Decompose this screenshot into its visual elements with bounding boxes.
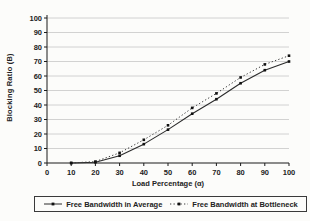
data-point-marker <box>118 152 121 155</box>
y-tick-label: 90 <box>34 28 42 37</box>
data-point-marker <box>239 82 242 85</box>
data-point-marker <box>143 139 146 142</box>
blocking-ratio-chart: Blocking Ratio (B) 010203040506070809010… <box>0 0 310 221</box>
data-point-marker <box>191 107 194 110</box>
data-point-marker <box>264 63 267 66</box>
x-tick-label: 90 <box>261 168 269 177</box>
y-tick-label: 10 <box>34 144 42 153</box>
data-point-marker <box>239 76 242 79</box>
legend-item-average: Free Bandwidth in Average <box>43 200 162 209</box>
y-tick-label: 50 <box>34 86 42 95</box>
x-tick-label: 30 <box>115 168 123 177</box>
x-axis-title: Load Percentage (α) <box>47 179 289 188</box>
x-tick-label: 0 <box>45 168 49 177</box>
x-tick-label: 10 <box>67 168 75 177</box>
x-tick-label: 60 <box>188 168 196 177</box>
data-point-marker <box>264 69 267 72</box>
legend-label-average: Free Bandwidth in Average <box>66 200 162 209</box>
y-tick-label: 100 <box>29 14 42 23</box>
y-tick-label: 40 <box>34 101 42 110</box>
data-point-marker <box>191 112 194 115</box>
data-point-marker <box>70 162 73 165</box>
y-tick-label: 70 <box>34 57 42 66</box>
data-point-marker <box>288 60 291 63</box>
data-point-marker <box>94 160 97 163</box>
data-point-marker <box>167 124 170 127</box>
y-tick-label: 60 <box>34 72 42 81</box>
x-tick-label: 20 <box>91 168 99 177</box>
y-tick-label: 30 <box>34 115 42 124</box>
series-line-0 <box>71 62 289 164</box>
data-point-marker <box>167 128 170 131</box>
data-point-marker <box>118 154 121 157</box>
x-tick-label: 80 <box>236 168 244 177</box>
y-tick-label: 80 <box>34 43 42 52</box>
data-point-marker <box>143 143 146 146</box>
data-point-marker <box>288 54 291 57</box>
y-tick-label: 20 <box>34 130 42 139</box>
series-line-1 <box>71 56 289 163</box>
data-point-marker <box>215 92 218 95</box>
solid-line-marker-icon <box>43 200 63 208</box>
y-tick-label: 0 <box>38 159 42 168</box>
x-tick-label: 70 <box>212 168 220 177</box>
legend: Free Bandwidth in Average Free Bandwidth… <box>34 196 307 212</box>
x-tick-label: 40 <box>140 168 148 177</box>
legend-label-bottleneck: Free Bandwidth at Bottleneck <box>192 200 297 209</box>
data-point-marker <box>215 98 218 101</box>
dotted-line-marker-icon <box>169 200 189 208</box>
x-tick-label: 50 <box>164 168 172 177</box>
x-tick-label: 100 <box>283 168 296 177</box>
legend-item-bottleneck: Free Bandwidth at Bottleneck <box>169 200 297 209</box>
